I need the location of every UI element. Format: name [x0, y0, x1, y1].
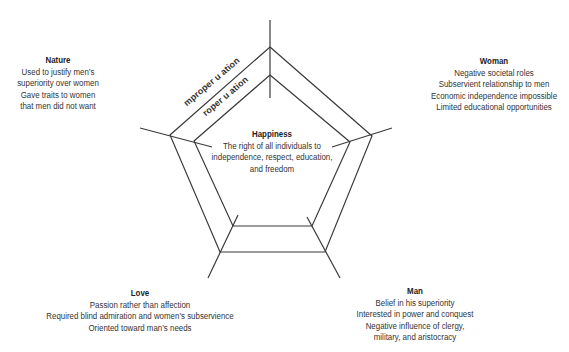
spoke-right — [332, 128, 392, 147]
node-woman: Woman Negative societal roles Subservien… — [430, 56, 557, 114]
node-love: Love Passion rather than affection Requi… — [37, 288, 243, 334]
node-line: Economic independence impossible — [430, 91, 557, 103]
node-title: Woman — [430, 56, 557, 68]
spoke-bottom-left — [208, 215, 238, 278]
node-line: The right of all individuals to — [203, 141, 341, 153]
node-line: Belief in his superiority — [351, 298, 480, 310]
node-line: superiority over women — [10, 78, 106, 90]
spoke-left — [140, 128, 212, 147]
node-man: Man Belief in his superiority Interested… — [351, 286, 480, 344]
node-line: Gave traits to women — [10, 90, 106, 102]
node-line: independence, respect, education, — [203, 152, 341, 164]
node-line: Passion rather than affection — [37, 300, 243, 312]
node-line: Required blind admiration and women’s su… — [37, 311, 243, 323]
node-line: Interested in power and conquest — [351, 309, 480, 321]
node-line: Oriented toward man’s needs — [37, 323, 243, 335]
node-title: Man — [351, 286, 480, 298]
node-line: military, and aristocracy — [351, 332, 480, 344]
node-line: and freedom — [203, 164, 341, 176]
node-line: that men did not want — [10, 101, 106, 113]
node-nature: Nature Used to justify men’s superiority… — [10, 55, 106, 113]
node-line: Limited educational opportunities — [430, 102, 557, 114]
node-title: Happiness — [203, 129, 341, 141]
node-happiness: Happiness The right of all individuals t… — [203, 129, 341, 175]
node-line: Negative influence of clergy, — [351, 321, 480, 333]
node-title: Love — [37, 288, 243, 300]
node-title: Nature — [10, 55, 106, 67]
node-line: Negative societal roles — [430, 68, 557, 80]
node-line: Used to justify men’s — [10, 67, 106, 79]
node-line: Subservient relationship to men — [430, 79, 557, 91]
